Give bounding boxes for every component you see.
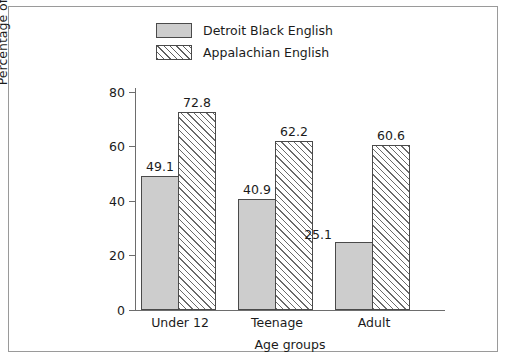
- x-tick-label-under-12: Under 12: [139, 315, 221, 330]
- legend-swatch-solid-icon: [156, 23, 192, 38]
- y-tick-0: [129, 310, 135, 311]
- legend-swatch-hatch-icon: [156, 45, 192, 60]
- bar-appalachian-adult: 60.6: [372, 145, 410, 310]
- bar-detroit-under-12: 49.1: [141, 176, 179, 310]
- bar-value-detroit-adult: 25.1: [304, 227, 332, 242]
- legend-item-detroit-black-english: Detroit Black English: [156, 19, 386, 41]
- bar-value-appalachian-adult: 60.6: [377, 128, 405, 143]
- x-tick-label-teenage: Teenage: [236, 315, 318, 330]
- bar-appalachian-under-12: 72.8: [178, 112, 216, 310]
- bar-detroit-adult: 25.1: [335, 242, 373, 310]
- y-tick-label-60: 60: [91, 139, 125, 154]
- bar-value-detroit-under-12: 49.1: [146, 159, 174, 174]
- x-axis-line: [135, 310, 445, 311]
- y-tick-label-0: 0: [91, 303, 125, 318]
- y-tick-label-80: 80: [91, 85, 125, 100]
- legend-item-appalachian-english: Appalachian English: [156, 41, 386, 63]
- legend-label-detroit-black-english: Detroit Black English: [203, 23, 333, 38]
- x-tick-label-adult: Adult: [333, 315, 415, 330]
- legend-label-appalachian-english: Appalachian English: [203, 45, 329, 60]
- bar-appalachian-teenage: 62.2: [275, 141, 313, 310]
- y-tick-label-40: 40: [91, 194, 125, 209]
- chart-legend: Detroit Black English Appalachian Englis…: [156, 19, 386, 63]
- chart-figure: Detroit Black English Appalachian Englis…: [0, 0, 509, 364]
- x-axis-title: Age groups: [135, 337, 445, 352]
- y-axis-title: Percentage of multiple negation: [0, 0, 10, 95]
- bar-value-appalachian-under-12: 72.8: [183, 95, 211, 110]
- y-tick-label-20: 20: [91, 248, 125, 263]
- bar-value-appalachian-teenage: 62.2: [280, 124, 308, 139]
- plot-area: 49.1 72.8 40.9 62.2 25.1 60.6: [135, 88, 445, 310]
- bar-value-detroit-teenage: 40.9: [243, 182, 271, 197]
- bar-detroit-teenage: 40.9: [238, 199, 276, 310]
